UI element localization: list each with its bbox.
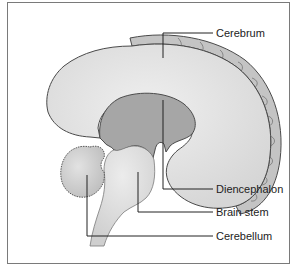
cerebellum-shape [61,146,105,197]
label-cerebrum: Cerebrum [216,27,265,39]
label-diencephalon: Diencephalon [216,183,283,195]
label-cerebellum: Cerebellum [216,230,272,242]
label-brain-stem: Brain stem [216,206,269,218]
